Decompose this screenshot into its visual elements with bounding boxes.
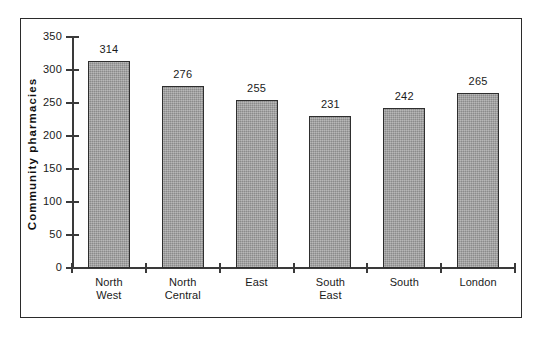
x-category-label-line: East <box>217 276 297 289</box>
bar-value-label: 265 <box>448 76 508 87</box>
x-category-label-line: North <box>69 276 149 289</box>
x-category-label: SouthEast <box>290 276 370 301</box>
x-category-label-line: East <box>290 289 370 302</box>
x-category-label: South <box>364 276 444 289</box>
bar <box>309 116 351 268</box>
bar-chart-plot-area: Community pharmacies 0501001502002503003… <box>0 0 548 340</box>
x-tick-mark <box>514 263 516 273</box>
x-category-label: NorthCentral <box>143 276 223 301</box>
y-tick-mark <box>66 102 79 104</box>
y-tick-label: 100 <box>28 196 62 207</box>
y-tick-mark <box>66 234 79 236</box>
y-tick-label: 50 <box>28 229 62 240</box>
y-tick-label-wrap: 350 <box>28 31 62 42</box>
x-tick-mark <box>293 263 295 273</box>
x-category-label: NorthWest <box>69 276 149 301</box>
bar-value-label: 231 <box>300 99 360 110</box>
y-tick-mark <box>66 168 79 170</box>
bar <box>88 61 130 268</box>
bar-value-label: 314 <box>79 44 139 55</box>
x-category-label: East <box>217 276 297 289</box>
y-tick-label: 200 <box>28 130 62 141</box>
x-category-label-line: North <box>143 276 223 289</box>
y-tick-mark <box>66 201 79 203</box>
y-tick-label-wrap: 200 <box>28 130 62 141</box>
y-tick-label: 150 <box>28 163 62 174</box>
y-tick-label: 300 <box>28 64 62 75</box>
y-tick-label: 350 <box>28 31 62 42</box>
y-tick-label-wrap: 300 <box>28 64 62 75</box>
x-tick-mark <box>440 263 442 273</box>
bar <box>457 93 499 268</box>
bar <box>236 100 278 268</box>
y-tick-label-wrap: 250 <box>28 97 62 108</box>
x-tick-mark <box>145 263 147 273</box>
y-tick-mark <box>66 36 79 38</box>
x-category-label: London <box>438 276 518 289</box>
chart-figure: Community pharmacies 0501001502002503003… <box>0 0 548 340</box>
y-tick-label-wrap: 50 <box>28 229 62 240</box>
x-category-label-line: South <box>364 276 444 289</box>
x-category-label-line: Central <box>143 289 223 302</box>
y-axis-label: Community pharmacies <box>26 54 38 254</box>
bar-value-label: 255 <box>227 83 287 94</box>
y-tick-label-wrap: 0 <box>28 262 62 273</box>
x-category-label-line: West <box>69 289 149 302</box>
y-tick-label-wrap: 150 <box>28 163 62 174</box>
y-tick-mark <box>66 69 79 71</box>
bar <box>383 108 425 268</box>
y-tick-label: 250 <box>28 97 62 108</box>
y-tick-mark <box>66 135 79 137</box>
bar <box>162 86 204 268</box>
x-tick-mark <box>71 263 73 273</box>
x-tick-mark <box>219 263 221 273</box>
x-category-label-line: London <box>438 276 518 289</box>
y-tick-label-wrap: 100 <box>28 196 62 207</box>
y-tick-label: 0 <box>28 262 62 273</box>
bar-value-label: 276 <box>153 69 213 80</box>
bar-value-label: 242 <box>374 91 434 102</box>
x-tick-mark <box>366 263 368 273</box>
x-category-label-line: South <box>290 276 370 289</box>
